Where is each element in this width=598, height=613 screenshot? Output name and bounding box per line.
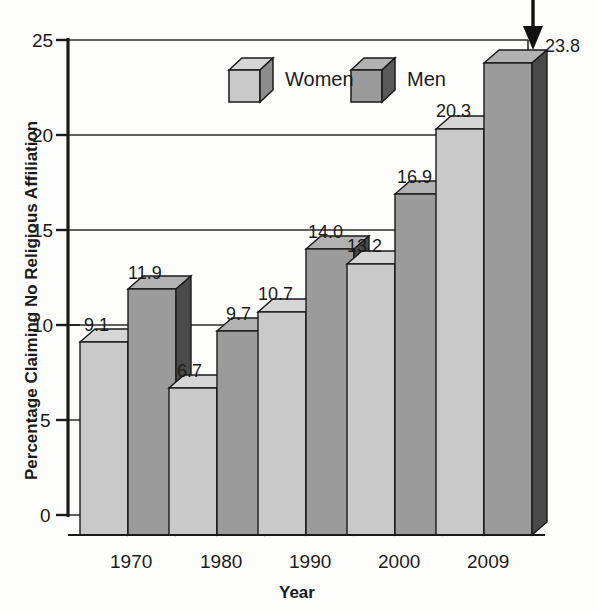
x-tick-label-2009: 2009	[467, 551, 509, 573]
bar-front-face	[436, 129, 484, 535]
value-label-1990-men: 14.0	[308, 222, 343, 243]
men-cube-swatch	[351, 58, 395, 102]
bar-side-face	[532, 50, 547, 535]
value-label-1970-women: 9.1	[84, 315, 109, 336]
value-label-1980-men: 9.7	[226, 304, 251, 325]
bar-front-face	[347, 264, 395, 535]
legend-label-women: Women	[285, 68, 354, 91]
bar-front-face	[80, 342, 128, 535]
x-tick-label-1970: 1970	[110, 551, 152, 573]
x-tick-label-1990: 1990	[289, 551, 331, 573]
bar-front-face	[169, 388, 217, 535]
value-label-1980-women: 6.7	[177, 361, 202, 382]
legend-label-men: Men	[407, 68, 446, 91]
chart-canvas	[0, 0, 598, 613]
value-label-1970-men: 11.9	[128, 263, 162, 284]
bar-front-face	[258, 312, 306, 535]
x-tick-label-1980: 1980	[200, 551, 242, 573]
bar-chart: 25 20 15 10 5 0 Percentage Claiming No R…	[0, 0, 598, 613]
x-tick-label-2000: 2000	[378, 551, 420, 573]
women-cube-swatch	[229, 58, 273, 102]
value-label-1990-women: 10.7	[258, 284, 293, 305]
y-tick-label-0: 0	[40, 505, 51, 527]
value-label-2009-men: 23.8	[545, 36, 580, 57]
y-axis-title: Percentage Claiming No Religious Affilia…	[22, 121, 42, 480]
value-label-2000-women: 13.2	[347, 236, 382, 257]
x-axis-title: Year	[279, 583, 315, 603]
bar-front-face	[484, 63, 532, 535]
y-tick-label-25: 25	[32, 30, 53, 52]
y-axis-ticks	[56, 40, 68, 515]
value-label-2009-women: 20.3	[436, 101, 471, 122]
bar-2009-men[interactable]	[484, 50, 547, 535]
value-label-2000-men: 16.9	[397, 167, 432, 188]
